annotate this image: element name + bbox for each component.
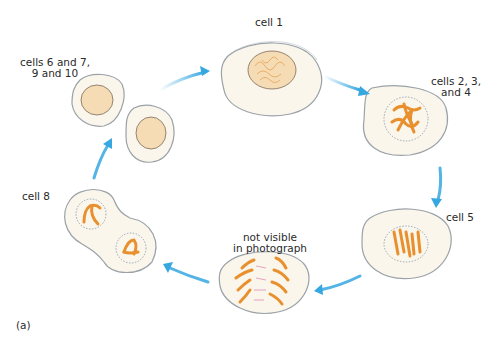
arrow-icon — [320, 276, 360, 290]
arrow-icon — [160, 72, 205, 90]
arrow-icon — [314, 284, 323, 295]
label-cell-5: cell 5 — [440, 212, 480, 223]
label-cell-1: cell 1 — [249, 17, 289, 28]
label-cell-8: cell 8 — [16, 191, 56, 202]
arrow-icon — [170, 268, 208, 282]
cell-cycle-diagram — [0, 0, 500, 349]
label-anaphase: not visible in photograph — [230, 232, 310, 254]
cell-8 — [65, 190, 156, 273]
cells-6-7-9-10 — [72, 74, 174, 162]
arrow-icon — [200, 66, 210, 76]
anaphase-cell — [219, 252, 309, 314]
arrow-icon — [438, 168, 441, 200]
arrow-icon — [431, 198, 442, 208]
panel-label: (a) — [16, 320, 40, 331]
arrow-icon — [94, 145, 108, 178]
cell-1 — [221, 42, 321, 116]
arrow-icon — [324, 76, 360, 90]
cell-5 — [362, 209, 451, 279]
label-cells-6-7-9-10: cells 6 and 7, 9 and 10 — [18, 57, 92, 79]
label-cells-2-3-4: cells 2, 3, and 4 — [426, 76, 486, 98]
